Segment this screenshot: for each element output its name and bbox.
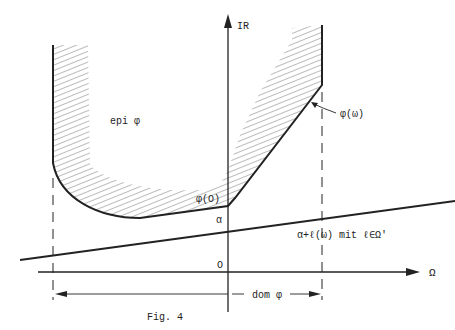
- affine-label: α+ℓ(ω) mit ℓ∈Ω': [297, 230, 387, 241]
- phi-zero-label: φ(O): [196, 194, 220, 205]
- epigraph-hatching: [40, 20, 340, 230]
- x-axis-label: Ω: [429, 267, 436, 279]
- function-label: φ(ω): [340, 109, 364, 120]
- y-axis-label: IR: [237, 21, 249, 32]
- x-axis-arrow-icon: [406, 268, 420, 276]
- epigraph-label: epi φ: [110, 116, 140, 127]
- dom-left-arrow-icon: [55, 291, 67, 297]
- domain-label: dom φ: [252, 290, 282, 301]
- affine-minorant-line: [20, 201, 455, 260]
- dom-right-arrow-icon: [309, 291, 321, 297]
- phi-omega-leader: [314, 104, 336, 113]
- alpha-label: α: [216, 215, 222, 226]
- epigraph-diagram: IR Ω epi φ φ(ω) φ(O) α O α+ℓ(ω) mit ℓ∈Ω'…: [0, 0, 455, 330]
- y-axis-arrow-icon: [224, 14, 232, 28]
- figure-caption: Fig. 4: [147, 312, 183, 323]
- origin-label: O: [217, 260, 223, 271]
